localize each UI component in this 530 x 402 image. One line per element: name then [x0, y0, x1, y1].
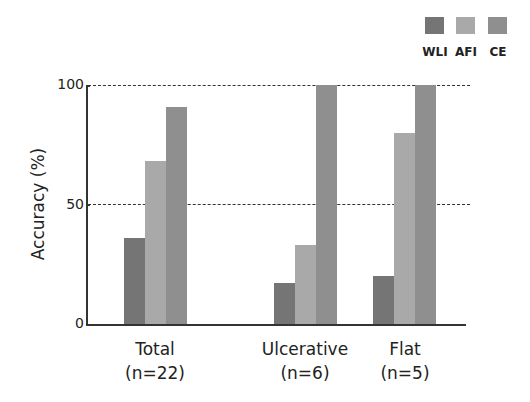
bar-total-wli: [124, 238, 145, 324]
x-category-flat: Flat(n=5): [345, 337, 465, 385]
y-tick-label-50: 50: [44, 196, 84, 212]
x-category-n: (n=22): [95, 361, 215, 385]
bar-ulcerative-ce: [316, 85, 337, 324]
y-tick-100: [86, 85, 90, 87]
y-axis-label: Accuracy (%): [28, 144, 48, 264]
x-category-n: (n=5): [345, 361, 465, 385]
x-category-name: Flat: [345, 337, 465, 361]
y-tick-0: [86, 324, 90, 326]
y-tick-label-0: 0: [44, 315, 84, 331]
legend-swatch-afi: [456, 17, 475, 34]
legend-swatch-ce: [488, 17, 507, 34]
bar-ulcerative-afi: [295, 245, 316, 324]
bar-flat-wli: [373, 276, 394, 324]
x-axis-line: [86, 324, 466, 326]
legend-label-ce: CE: [481, 45, 515, 59]
bar-total-afi: [145, 161, 166, 324]
y-tick-50: [86, 205, 90, 207]
legend-label-afi: AFI: [449, 45, 483, 59]
bar-flat-afi: [394, 133, 415, 324]
bar-flat-ce: [415, 85, 436, 324]
bar-total-ce: [166, 107, 187, 324]
legend-swatch-wli: [425, 17, 444, 34]
y-tick-label-100: 100: [44, 76, 84, 92]
legend-label-wli: WLI: [418, 45, 452, 59]
x-category-total: Total(n=22): [95, 337, 215, 385]
bar-ulcerative-wli: [274, 283, 295, 324]
x-category-name: Total: [95, 337, 215, 361]
gridline-100: [88, 85, 470, 86]
